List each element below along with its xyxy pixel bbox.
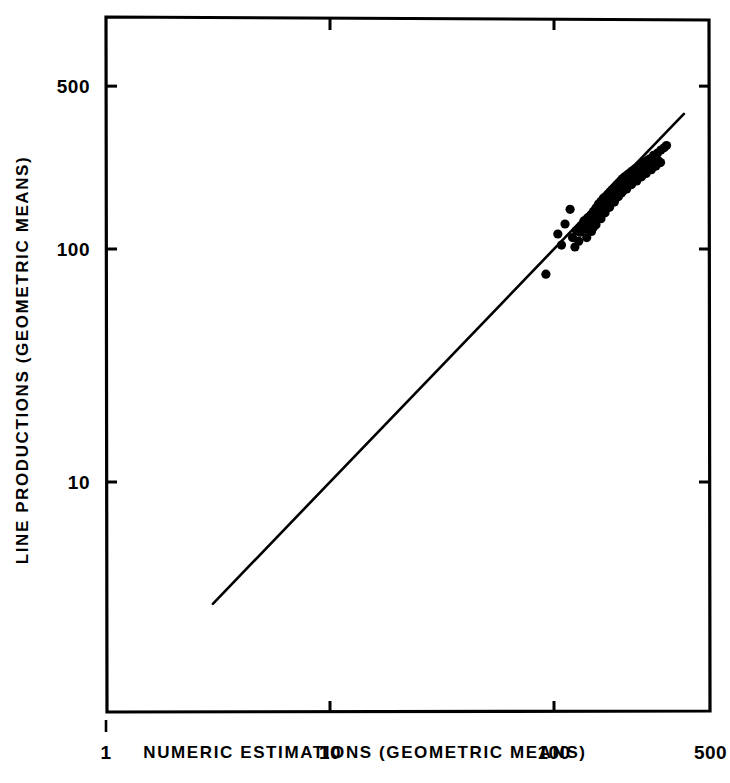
y-axis-title: LINE PRODUCTIONS (GEOMETRIC MEANS) xyxy=(14,156,31,565)
x-axis-title: NUMERIC ESTIMATIONS (GEOMETRIC MEANS) xyxy=(143,744,586,761)
axes-frame xyxy=(106,17,710,712)
x-tick-label-1: 1 xyxy=(100,743,111,762)
y-tick-label-10: 10 xyxy=(68,473,90,492)
scatter-plot-svg xyxy=(0,0,730,783)
y-tick-label-500: 500 xyxy=(57,77,90,96)
x-tick-label-500: 500 xyxy=(694,743,727,762)
tick-marks xyxy=(106,19,710,732)
figure-container: 1 10 100 500 10 100 500 NUMERIC ESTIMATI… xyxy=(0,0,730,783)
y-tick-label-100: 100 xyxy=(57,240,90,259)
data-points xyxy=(541,141,671,279)
